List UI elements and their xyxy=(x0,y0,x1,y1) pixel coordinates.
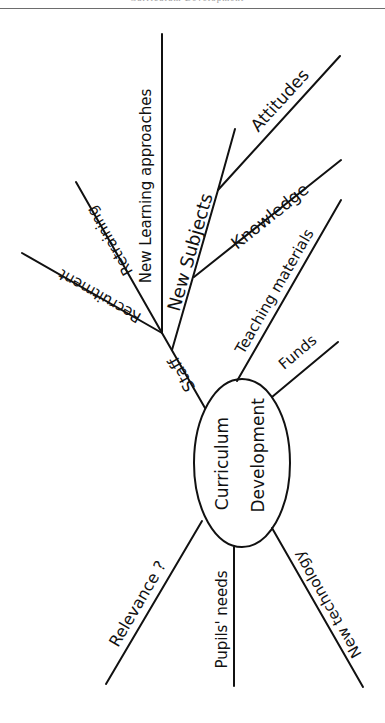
attitudes-line xyxy=(218,56,340,190)
center-node-label-development: Development xyxy=(250,409,267,513)
center-node-ellipse xyxy=(194,379,290,547)
new-technology-line xyxy=(272,528,363,687)
relevance-line xyxy=(106,521,202,684)
label-new-learning-approaches: New Learning approaches xyxy=(139,86,154,286)
center-node-label-curriculum: Curriculum xyxy=(214,414,231,514)
label-pupils-needs: Pupils' needs xyxy=(215,565,230,675)
